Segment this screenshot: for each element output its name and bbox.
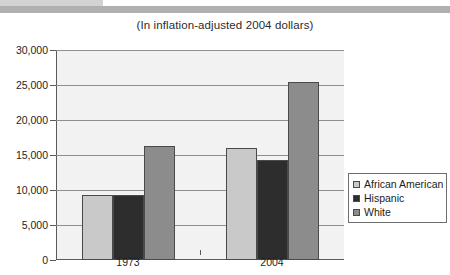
bar xyxy=(226,148,257,260)
y-axis-tick-label: 0 xyxy=(0,254,48,266)
y-axis-tick-label: 15,000 xyxy=(0,149,48,161)
legend-label: White xyxy=(364,206,391,218)
bar xyxy=(82,195,113,260)
y-axis-tick-label: 20,000 xyxy=(0,114,48,126)
legend-swatch-icon xyxy=(353,181,360,188)
legend-swatch-icon xyxy=(353,209,360,216)
gridline xyxy=(56,50,344,51)
bar xyxy=(288,82,319,261)
chart-legend: African AmericanHispanicWhite xyxy=(348,173,447,223)
legend-swatch-icon xyxy=(353,195,360,202)
y-axis-tick-mark xyxy=(50,155,56,156)
bar xyxy=(144,146,175,260)
y-axis-tick-mark xyxy=(50,120,56,121)
y-axis-tick-label: 25,000 xyxy=(0,79,48,91)
legend-item[interactable]: White xyxy=(353,205,443,219)
x-axis-tick-label: 1973 xyxy=(98,256,158,268)
y-axis-tick-label: 30,000 xyxy=(0,44,48,56)
y-axis-tick-mark xyxy=(50,260,56,261)
x-axis-tick-label: 2004 xyxy=(242,256,302,268)
bar xyxy=(113,195,144,260)
header-band xyxy=(0,0,450,13)
legend-item[interactable]: African American xyxy=(353,177,443,191)
y-axis-tick-mark xyxy=(50,85,56,86)
y-axis-tick-mark xyxy=(50,50,56,51)
y-axis-tick-mark xyxy=(50,190,56,191)
chart-figure: 05,00010,00015,00020,00025,00030,000 197… xyxy=(0,40,450,275)
legend-item[interactable]: Hispanic xyxy=(353,191,443,205)
y-axis-tick-mark xyxy=(50,225,56,226)
legend-label: Hispanic xyxy=(364,192,404,204)
bar xyxy=(257,160,288,260)
x-axis-tick-mid xyxy=(200,250,201,255)
legend-label: African American xyxy=(364,178,443,190)
y-axis-tick-label: 10,000 xyxy=(0,184,48,196)
header-band-dark xyxy=(0,6,450,13)
y-axis-tick-label: 5,000 xyxy=(0,219,48,231)
chart-title: (In inflation-adjusted 2004 dollars) xyxy=(0,19,450,31)
